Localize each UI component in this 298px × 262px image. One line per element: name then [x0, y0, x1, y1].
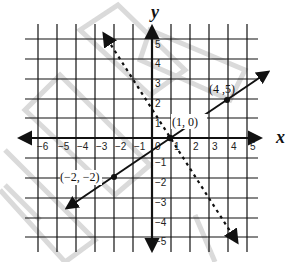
point-4-5 [224, 97, 230, 103]
svg-text:−2: −2 [115, 141, 127, 152]
svg-text:−5: −5 [58, 141, 70, 152]
point-label-m2-m2: (−2, −2) [60, 170, 100, 184]
point-m2-m2 [111, 174, 117, 180]
svg-text:−5: −5 [155, 236, 167, 247]
point-label-1-0: (1, 0) [172, 115, 198, 129]
svg-text:−1: −1 [134, 141, 146, 152]
y-axis-label: y [149, 2, 160, 22]
coordinate-plane: x y −6 −5 −4 −3 −2 −1 0 1 2 3 4 5 5 4 3 … [0, 0, 298, 262]
svg-text:−6: −6 [37, 141, 49, 152]
svg-text:3: 3 [155, 78, 161, 89]
watermark [0, 5, 245, 262]
svg-text:−2: −2 [155, 177, 167, 188]
svg-text:5: 5 [155, 39, 161, 50]
svg-text:−1: −1 [155, 157, 167, 168]
svg-text:−3: −3 [155, 197, 167, 208]
svg-text:2: 2 [155, 98, 161, 109]
svg-text:4: 4 [155, 58, 161, 69]
point-label-4-5: (4 ,5) [209, 82, 235, 96]
svg-text:4: 4 [231, 141, 237, 152]
svg-text:−4: −4 [155, 217, 167, 228]
point-1-0 [167, 135, 173, 141]
svg-text:−3: −3 [96, 141, 108, 152]
svg-text:2: 2 [193, 141, 199, 152]
svg-text:5: 5 [250, 141, 256, 152]
solid-line [67, 72, 268, 208]
x-axis-label: x [275, 127, 285, 147]
svg-text:−4: −4 [77, 141, 89, 152]
svg-text:3: 3 [212, 141, 218, 152]
